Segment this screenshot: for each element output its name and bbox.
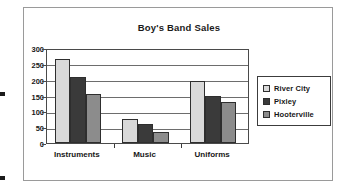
y-tick-mark [42,81,46,82]
legend-item[interactable]: River City [263,82,326,94]
gridline [47,65,248,66]
x-tick-mark [181,144,182,148]
bar [55,59,71,143]
y-tick-mark [42,97,46,98]
bar [205,96,221,144]
y-tick-mark [42,128,46,129]
y-tick-mark [42,65,46,66]
legend-swatch-icon [263,111,270,118]
x-tick-label: Music [133,150,156,159]
legend-swatch-icon [263,85,270,92]
y-tick-mark [42,49,46,50]
bar [86,94,102,143]
y-tick-mark [42,144,46,145]
bar [70,77,86,144]
y-tick-label: 50 [24,124,44,133]
bar [190,81,206,143]
y-tick-label: 300 [24,45,44,54]
bar [122,119,138,143]
scan-edge-mark [0,92,5,96]
x-tick-mark [114,144,115,148]
legend-label: Hooterville [274,110,314,119]
bar [221,102,237,143]
y-tick-mark [42,112,46,113]
y-tick-label: 250 [24,60,44,69]
y-axis: 050100150200250300 [24,49,44,144]
legend-item[interactable]: Hooterville [263,108,326,120]
legend-item[interactable]: Pixley [263,95,326,107]
chart-legend: River CityPixleyHooterville [257,76,331,126]
chart-title: Boy's Band Sales [24,22,334,33]
chart-frame: Boy's Band Sales 050100150200250300 Inst… [23,7,333,181]
bar [138,124,154,143]
legend-label: River City [274,84,310,93]
x-tick-label: Instruments [54,150,100,159]
y-tick-label: 100 [24,108,44,117]
plot-area [46,49,249,144]
scan-edge-mark [0,176,5,180]
legend-swatch-icon [263,98,270,105]
y-tick-label: 150 [24,92,44,101]
legend-label: Pixley [274,97,296,106]
y-tick-label: 0 [24,140,44,149]
bar [153,132,169,143]
y-tick-label: 200 [24,76,44,85]
x-tick-label: Uniforms [195,150,230,159]
